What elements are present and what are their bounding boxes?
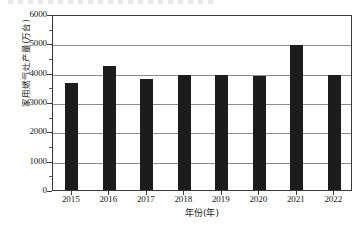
y-major-tick-2000 bbox=[47, 132, 52, 133]
y-tick-label-6000: 6000 bbox=[29, 10, 47, 19]
bar-2016 bbox=[103, 66, 116, 190]
bar-2020 bbox=[253, 76, 266, 190]
x-tick-label-2017: 2017 bbox=[126, 194, 166, 204]
y-minor-tick-1500 bbox=[49, 147, 52, 148]
y-major-tick-3000 bbox=[47, 103, 52, 104]
gridline-2000 bbox=[53, 133, 351, 134]
bar-2021 bbox=[290, 45, 303, 190]
gridline-1000 bbox=[53, 163, 351, 164]
y-tick-label-2000: 2000 bbox=[29, 127, 47, 136]
bar-2017 bbox=[140, 79, 153, 190]
y-minor-tick-4500 bbox=[49, 59, 52, 60]
y-major-tick-4000 bbox=[47, 74, 52, 75]
x-tick-label-2016: 2016 bbox=[88, 194, 128, 204]
y-tick-label-3000: 3000 bbox=[29, 98, 47, 107]
gridline-5000 bbox=[53, 45, 351, 46]
plot-area bbox=[52, 15, 352, 191]
bar-2019 bbox=[215, 75, 228, 190]
y-minor-tick-2500 bbox=[49, 118, 52, 119]
y-tick-label-1000: 1000 bbox=[29, 157, 47, 166]
y-tick-label-5000: 5000 bbox=[29, 39, 47, 48]
x-tick-label-2022: 2022 bbox=[313, 194, 353, 204]
y-major-tick-1000 bbox=[47, 162, 52, 163]
gridline-4000 bbox=[53, 75, 351, 76]
x-tick-label-2018: 2018 bbox=[163, 194, 203, 204]
y-minor-tick-3500 bbox=[49, 88, 52, 89]
gridline-3000 bbox=[53, 104, 351, 105]
y-minor-tick-500 bbox=[49, 176, 52, 177]
y-major-tick-6000 bbox=[47, 15, 52, 16]
bar-2015 bbox=[65, 83, 78, 190]
x-tick-label-2020: 2020 bbox=[238, 194, 278, 204]
bar-2022 bbox=[328, 75, 341, 190]
bar-chart-figure: 0100020003000400050006000 家用燃气灶产量(万台) 20… bbox=[0, 0, 364, 230]
x-axis-title: 年份(年) bbox=[52, 208, 352, 219]
y-axis-title: 家用燃气灶产量(万台) bbox=[21, 13, 31, 113]
x-tick-label-2021: 2021 bbox=[276, 194, 316, 204]
y-minor-tick-5500 bbox=[49, 30, 52, 31]
y-major-tick-0 bbox=[47, 191, 52, 192]
bar-2018 bbox=[178, 75, 191, 190]
y-tick-label-4000: 4000 bbox=[29, 69, 47, 78]
x-tick-label-2015: 2015 bbox=[51, 194, 91, 204]
y-major-tick-5000 bbox=[47, 44, 52, 45]
x-tick-label-2019: 2019 bbox=[201, 194, 241, 204]
